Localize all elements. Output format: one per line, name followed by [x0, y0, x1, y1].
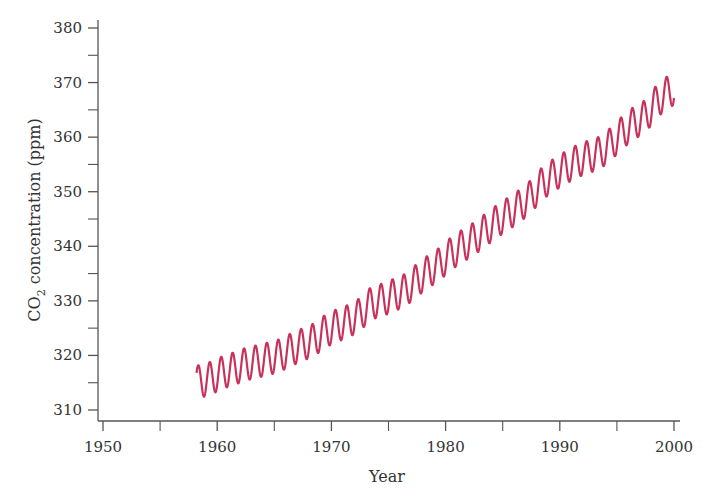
co2-series-line	[197, 77, 674, 397]
x-tick-label: 1970	[312, 438, 350, 456]
x-tick-label: 1950	[84, 438, 122, 456]
x-tick-label: 1990	[541, 438, 579, 456]
x-axis: 195019601970198019902000	[84, 421, 693, 456]
x-tick-label: 1980	[427, 438, 465, 456]
co2-line-chart: 310320330340350360370380 195019601970198…	[0, 0, 712, 499]
y-tick-label: 360	[53, 128, 82, 146]
y-axis-title: CO2 concentration (ppm)	[25, 118, 48, 321]
x-tick-label: 1960	[198, 438, 236, 456]
x-tick-label: 2000	[655, 438, 693, 456]
y-tick-label: 370	[53, 74, 82, 92]
y-tick-label: 320	[53, 346, 82, 364]
x-axis-title: Year	[368, 467, 405, 486]
y-tick-label: 380	[53, 19, 82, 37]
y-tick-label: 350	[53, 183, 82, 201]
y-axis: 310320330340350360370380	[53, 19, 98, 421]
y-tick-label: 340	[53, 237, 82, 255]
y-tick-label: 330	[53, 292, 82, 310]
y-tick-label: 310	[53, 401, 82, 419]
